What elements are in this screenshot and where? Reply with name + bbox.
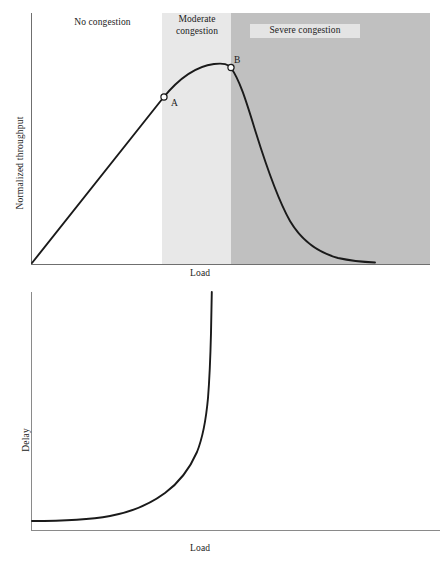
figure-congestion-effects: No congestion Moderate congestion Severe… xyxy=(0,0,443,569)
throughput-chart-canvas xyxy=(0,0,443,285)
region-severe-congestion xyxy=(231,13,430,264)
delay-chart-canvas xyxy=(0,285,443,569)
delay-y-axis-title: Delay xyxy=(21,410,31,470)
point-b-label: B xyxy=(234,55,240,65)
point-a-marker xyxy=(161,94,167,100)
region-moderate-congestion xyxy=(162,13,231,264)
region-label-moderate-congestion: Moderate congestion xyxy=(164,14,230,37)
delay-curve xyxy=(32,292,212,521)
throughput-y-axis-title: Normalized throughput xyxy=(15,93,25,233)
point-b-marker xyxy=(228,64,234,70)
delay-chart: Delay Load xyxy=(0,285,443,569)
delay-x-axis-title: Load xyxy=(190,543,210,553)
throughput-chart: No congestion Moderate congestion Severe… xyxy=(0,0,443,285)
point-a-label: A xyxy=(171,98,178,108)
throughput-x-axis-title: Load xyxy=(190,268,210,278)
region-label-severe-congestion: Severe congestion xyxy=(250,24,360,38)
region-label-no-congestion: No congestion xyxy=(45,17,160,29)
